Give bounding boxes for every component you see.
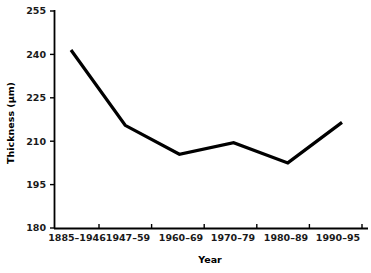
series-line-thickness	[71, 50, 342, 163]
y-tick-label-240: 240	[26, 49, 46, 60]
y-tick-label-225: 225	[26, 92, 46, 103]
chart-canvas: 255 240 225 210 195 180 1885–1946 1947–5…	[0, 0, 371, 273]
x-tick-label-4: 1980–89	[264, 232, 308, 243]
line-chart: 255 240 225 210 195 180 1885–1946 1947–5…	[0, 0, 371, 273]
x-axis-title: Year	[197, 254, 222, 265]
y-tick-label-180: 180	[26, 222, 46, 233]
x-tick-label-2: 1960–69	[159, 232, 203, 243]
y-tick-label-195: 195	[26, 179, 46, 190]
x-tick-label-5: 1990–95	[316, 232, 360, 243]
y-axis-title: Thickness (µm)	[5, 82, 16, 164]
y-tick-labels: 255 240 225 210 195 180	[26, 5, 46, 233]
x-tick-label-1: 1947–59	[106, 232, 150, 243]
y-tick-label-210: 210	[26, 136, 46, 147]
x-tick-label-0: 1885–1946	[48, 232, 106, 243]
x-tick-label-3: 1970–79	[211, 232, 255, 243]
axis-group	[54, 10, 368, 229]
y-tick-label-255: 255	[26, 5, 46, 16]
x-tick-labels: 1885–1946 1947–59 1960–69 1970–79 1980–8…	[48, 232, 360, 243]
